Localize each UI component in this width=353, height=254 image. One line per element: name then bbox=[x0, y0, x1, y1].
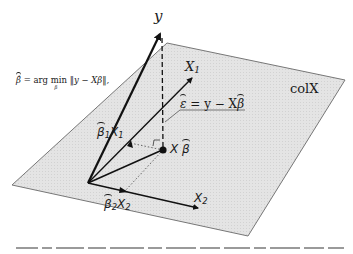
beta1-x1-label: β1X1 bbox=[97, 126, 124, 139]
formula-op-sub: β bbox=[54, 85, 57, 90]
x2-label-sub: 2 bbox=[202, 196, 207, 206]
beta1-x: X bbox=[110, 125, 118, 139]
argmin-formula: β̂ = arg min β ‖y − Xβ‖, bbox=[16, 76, 109, 85]
residual-eps: ε bbox=[180, 98, 186, 110]
x2-label: X2 bbox=[194, 192, 208, 205]
fitted-label-x: X bbox=[170, 142, 178, 156]
fitted-point bbox=[159, 146, 166, 153]
x2-label-x: X bbox=[194, 191, 202, 205]
formula-lhs: β̂ bbox=[16, 76, 21, 85]
column-space-label: colX bbox=[290, 82, 319, 95]
fitted-label-beta: β bbox=[182, 143, 190, 155]
beta2-symbol: β bbox=[104, 198, 112, 210]
residual-beta: β bbox=[237, 98, 244, 110]
ols-geometry-diagram bbox=[0, 0, 353, 254]
fitted-label: X β bbox=[170, 143, 190, 155]
residual-label: ε = y − Xβ bbox=[180, 98, 244, 110]
x1-label-x: X bbox=[185, 59, 194, 74]
beta2-x2-label: β2X2 bbox=[104, 198, 131, 211]
x1-label-sub: 1 bbox=[194, 65, 200, 75]
beta1-symbol: β bbox=[97, 126, 105, 138]
beta1-xsub: 1 bbox=[118, 130, 123, 140]
beta2-xsub: 2 bbox=[125, 202, 130, 212]
caption-blur bbox=[16, 245, 346, 251]
y-label: y bbox=[154, 9, 162, 24]
figure-caption bbox=[16, 245, 346, 251]
formula-op: arg min bbox=[33, 75, 67, 85]
beta2-x: X bbox=[117, 197, 125, 211]
formula-rhs: ‖y − Xβ‖, bbox=[70, 75, 110, 85]
column-space-plane bbox=[12, 43, 345, 236]
residual-rest: = y − X bbox=[186, 97, 237, 111]
x1-label: X1 bbox=[185, 60, 200, 75]
formula-eq: = bbox=[24, 75, 31, 85]
